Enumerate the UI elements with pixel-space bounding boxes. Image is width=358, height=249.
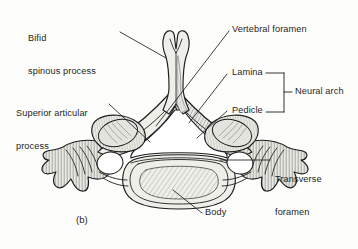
label-transverse-foramen: Transverse foramen: [275, 152, 322, 240]
figure-canvas: Bifid spinous process Superior articular…: [0, 0, 358, 249]
label-transverse-foramen-line1: Transverse: [275, 174, 322, 185]
label-neural-arch: Neural arch: [295, 86, 344, 97]
label-body: Body: [205, 207, 226, 218]
figure-caption: (b): [76, 214, 88, 225]
label-bifid-spinous-process-line2: spinous process: [28, 66, 96, 77]
vertebral-body-endplate: [140, 166, 219, 199]
label-superior-articular-process: Superior articular process: [16, 86, 88, 174]
label-pedicle: Pedicle: [232, 105, 263, 116]
leader-bifid-spinous-process: [120, 32, 166, 58]
neural-arch-bracket: [266, 73, 292, 112]
label-lamina: Lamina: [232, 67, 263, 78]
label-superior-articular-process-line1: Superior articular: [16, 108, 88, 119]
label-superior-articular-process-line2: process: [16, 141, 88, 152]
label-transverse-foramen-line2: foramen: [275, 207, 322, 218]
label-bifid-spinous-process-line1: Bifid: [28, 33, 96, 44]
label-vertebral-foramen: Vertebral foramen: [232, 24, 307, 35]
